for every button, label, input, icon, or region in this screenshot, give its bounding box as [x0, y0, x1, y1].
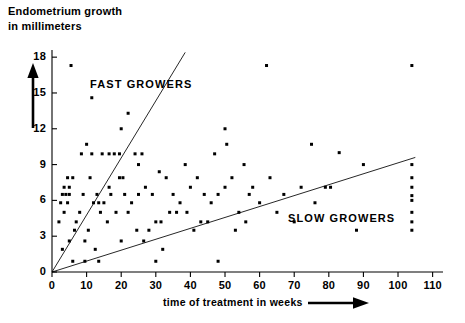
data-point	[313, 201, 316, 204]
data-point	[115, 211, 118, 214]
data-point	[61, 193, 64, 196]
data-point	[410, 220, 413, 223]
data-point	[66, 201, 69, 204]
y-tick-label-12: 12	[12, 122, 46, 134]
data-point	[83, 239, 86, 242]
data-point	[158, 170, 161, 173]
data-point	[68, 193, 71, 196]
data-point	[142, 239, 145, 242]
data-point	[113, 152, 116, 155]
data-point	[101, 152, 104, 155]
data-point	[85, 143, 88, 146]
data-point	[118, 152, 121, 155]
data-point	[161, 248, 164, 251]
data-point	[275, 211, 278, 214]
data-point	[410, 199, 413, 202]
data-point	[410, 176, 413, 179]
data-point	[134, 152, 137, 155]
y-tick-label-3: 3	[12, 229, 46, 241]
data-point	[92, 201, 95, 204]
data-point	[410, 64, 413, 67]
fast-growers-boundary	[52, 52, 185, 272]
data-point	[57, 220, 60, 223]
data-point	[99, 211, 102, 214]
data-point	[248, 193, 251, 196]
data-point	[217, 193, 220, 196]
y-axis-ticks	[52, 57, 57, 272]
data-point	[80, 152, 83, 155]
data-point	[135, 229, 138, 232]
data-point	[73, 229, 76, 232]
data-point	[97, 201, 100, 204]
data-point	[159, 220, 162, 223]
data-point	[151, 193, 154, 196]
data-point	[203, 193, 206, 196]
data-point	[127, 112, 130, 115]
data-point	[63, 186, 66, 189]
data-point	[108, 152, 111, 155]
x-axis-direction-arrow	[308, 297, 369, 309]
reference-lines	[52, 52, 415, 272]
data-point	[210, 201, 213, 204]
data-point	[89, 176, 92, 179]
data-point	[109, 193, 112, 196]
data-point	[154, 220, 157, 223]
data-point	[234, 229, 237, 232]
data-point	[185, 211, 188, 214]
data-point	[61, 248, 64, 251]
data-point	[410, 194, 413, 197]
data-point	[123, 193, 126, 196]
y-tick-label-18: 18	[12, 50, 46, 62]
data-point	[118, 176, 121, 179]
data-points	[57, 64, 413, 263]
data-point	[140, 152, 143, 155]
data-point	[78, 211, 81, 214]
data-point	[82, 193, 85, 196]
data-point	[199, 220, 202, 223]
data-point	[192, 229, 195, 232]
data-point	[90, 152, 93, 155]
data-point	[154, 260, 157, 263]
data-point	[244, 220, 247, 223]
data-point	[68, 186, 71, 189]
data-point	[95, 193, 98, 196]
data-point	[175, 211, 178, 214]
data-point	[75, 220, 78, 223]
data-point	[94, 248, 97, 251]
data-point	[87, 229, 90, 232]
data-point	[137, 163, 140, 166]
x-axis-ticks	[52, 272, 433, 277]
data-point	[410, 163, 413, 166]
data-point	[329, 186, 332, 189]
data-point	[206, 220, 209, 223]
y-tick-label-9: 9	[12, 158, 46, 170]
data-point	[70, 64, 73, 67]
data-point	[66, 176, 69, 179]
data-point	[165, 176, 168, 179]
data-point	[68, 239, 71, 242]
data-point	[121, 176, 124, 179]
data-point	[355, 229, 358, 232]
data-point	[237, 211, 240, 214]
data-point	[189, 186, 192, 189]
data-point	[362, 163, 365, 166]
data-point	[90, 96, 93, 99]
data-point	[196, 176, 199, 179]
data-point	[147, 229, 150, 232]
y-tick-label-0: 0	[12, 265, 46, 277]
data-point	[64, 193, 67, 196]
data-point	[410, 211, 413, 214]
data-point	[97, 260, 100, 263]
data-point	[144, 186, 147, 189]
data-point	[338, 151, 341, 154]
data-point	[213, 152, 216, 155]
data-point	[243, 163, 246, 166]
data-point	[265, 64, 268, 67]
data-point	[230, 176, 233, 179]
slow-growers-boundary	[52, 157, 415, 272]
data-point	[168, 211, 171, 214]
data-point	[410, 186, 413, 189]
data-point	[172, 193, 175, 196]
data-point	[108, 186, 111, 189]
data-point	[63, 211, 66, 214]
